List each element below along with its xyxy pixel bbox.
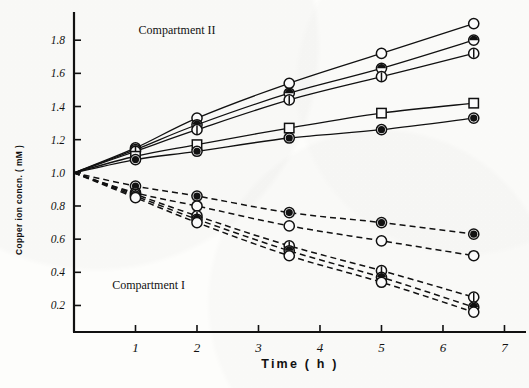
y-axis-title-text: Copper ion concn. ( mM ) [14, 145, 24, 255]
data-point-marker [470, 115, 477, 122]
data-point-marker [193, 192, 200, 199]
y-tick-label: 1.6 [51, 67, 66, 79]
data-point-marker [192, 201, 202, 211]
y-tick-label: 1.8 [51, 34, 66, 46]
data-point-marker [376, 48, 386, 58]
chart-background [0, 0, 529, 388]
data-point-marker [469, 19, 479, 29]
data-point-marker [469, 98, 478, 107]
compartment-1-label: Compartment I [112, 278, 185, 292]
x-tick-label: 6 [440, 340, 447, 355]
data-point-marker [284, 78, 294, 88]
x-axis-title: Time ( h ) [261, 357, 338, 371]
data-point-marker [470, 231, 477, 238]
x-tick-label: 7 [501, 340, 508, 355]
x-axis-title-text: Time ( h ) [261, 357, 338, 371]
x-tick-label: 4 [317, 340, 324, 355]
compartment-2-label: Compartment II [139, 23, 216, 37]
data-point-marker [132, 156, 139, 163]
data-point-marker [286, 209, 293, 216]
data-point-marker [193, 148, 200, 155]
data-point-marker [284, 221, 294, 231]
data-point-marker [286, 134, 293, 141]
figure-container: 0.20.40.60.81.01.21.41.61.81234567 Compa… [0, 0, 529, 388]
y-tick-label: 1.2 [51, 134, 66, 146]
y-tick-label: 1.0 [51, 167, 66, 179]
data-point-marker [192, 217, 202, 227]
y-tick-label: 0.8 [51, 200, 66, 212]
data-point-marker [376, 236, 386, 246]
x-tick-label: 5 [378, 340, 385, 355]
data-point-marker [377, 108, 386, 117]
data-point-marker [130, 193, 140, 203]
y-tick-label: 0.2 [51, 299, 66, 311]
data-point-marker [469, 307, 479, 317]
data-point-marker [378, 126, 385, 133]
data-point-marker [376, 277, 386, 287]
y-tick-label: 0.4 [51, 266, 66, 278]
data-point-marker [284, 251, 294, 261]
y-tick-label: 0.6 [51, 233, 66, 245]
y-tick-label: 1.4 [51, 101, 66, 113]
x-tick-label: 1 [132, 340, 139, 355]
x-tick-label: 3 [254, 340, 262, 355]
data-point-marker [469, 251, 479, 261]
y-axis-title: Copper ion concn. ( mM ) [14, 145, 24, 255]
x-tick-label: 2 [194, 340, 201, 355]
data-point-marker [285, 123, 294, 132]
copper-ion-concentration-chart: 0.20.40.60.81.01.21.41.61.81234567 Compa… [0, 0, 529, 388]
data-point-marker [378, 219, 385, 226]
